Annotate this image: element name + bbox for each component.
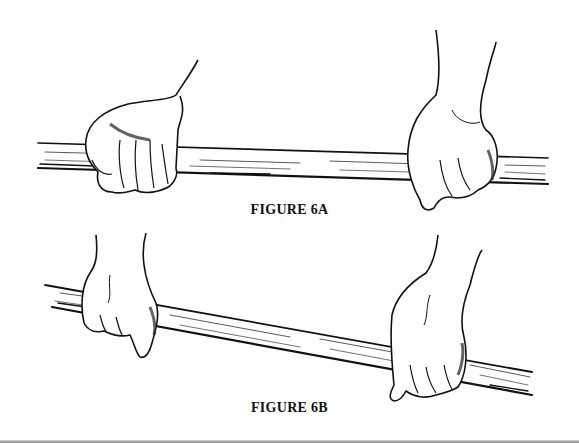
figure-6a: FIGURE 6A [0, 0, 579, 225]
right-hand [390, 235, 482, 401]
left-hand [82, 233, 158, 357]
figure-6a-illustration [0, 0, 579, 225]
figure-caption: FIGURE 6A [0, 202, 579, 218]
figure-6b: FIGURE 6B [0, 225, 579, 440]
figure-caption: FIGURE 6B [0, 400, 579, 416]
right-hand [408, 30, 498, 210]
